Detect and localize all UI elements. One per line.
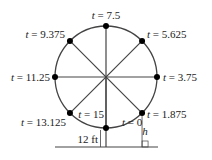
time-label: t = 5.625 xyxy=(147,28,187,40)
position-dot xyxy=(67,38,73,44)
time-label: t = 9.375 xyxy=(25,28,65,40)
height-12ft-label: 12 ft xyxy=(78,133,98,145)
position-dot xyxy=(154,74,160,80)
time-label: t = 0 xyxy=(122,116,143,128)
time-label: t = 13.125 xyxy=(21,116,67,128)
time-label: t = 7.5 xyxy=(92,9,121,21)
h-label: h xyxy=(142,125,148,137)
position-dot xyxy=(103,125,109,131)
position-dot xyxy=(139,38,145,44)
time-label: t = 11.25 xyxy=(11,71,51,83)
position-dot xyxy=(103,23,109,29)
time-label: t = 15 xyxy=(78,108,104,120)
time-label: t = 3.75 xyxy=(163,71,198,83)
ferris-wheel-diagram: t = 0t = 1.875t = 3.75t = 5.625t = 7.5t … xyxy=(0,0,212,160)
time-label: t = 1.875 xyxy=(147,108,187,120)
right-angle-marker xyxy=(142,141,148,147)
position-dot xyxy=(52,74,58,80)
position-dot xyxy=(67,110,73,116)
diagram-canvas: t = 0t = 1.875t = 3.75t = 5.625t = 7.5t … xyxy=(0,0,212,160)
